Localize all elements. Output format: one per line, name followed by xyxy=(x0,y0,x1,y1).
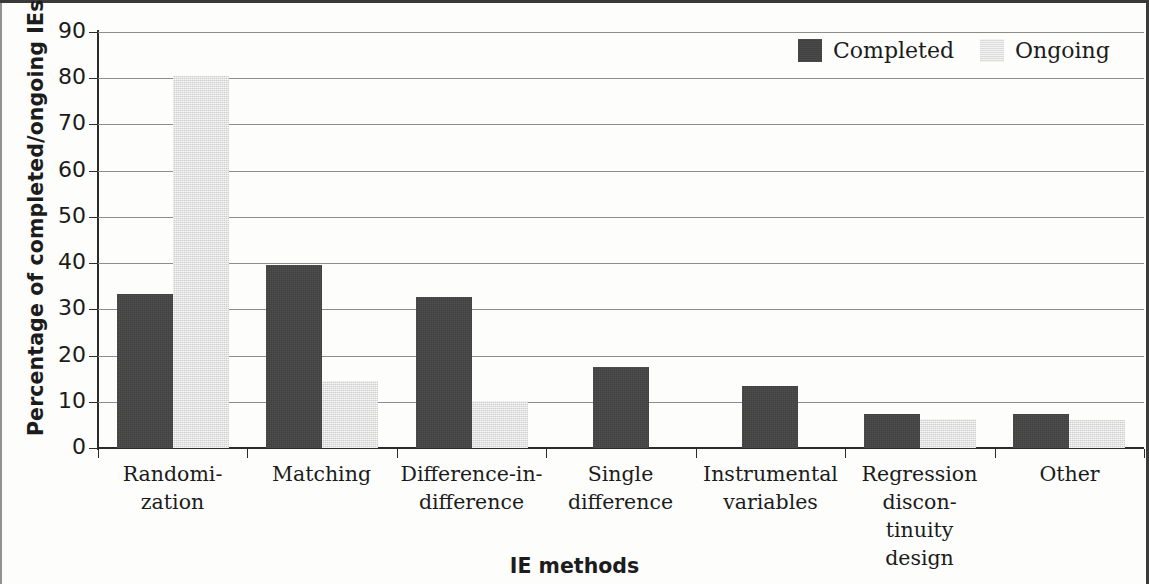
y-tick-label: 90 xyxy=(26,20,86,42)
x-tick-mark xyxy=(696,449,697,458)
x-axis-category-label-line: discon- xyxy=(845,489,994,517)
bar-completed xyxy=(416,297,472,448)
x-axis-category-label-line: Single xyxy=(546,461,695,489)
y-tick-label: 40 xyxy=(26,251,86,273)
bar-ongoing xyxy=(322,381,378,448)
x-axis-category-label-line: variables xyxy=(696,489,845,517)
y-tick-label: 80 xyxy=(26,66,86,88)
gridline xyxy=(98,78,1144,79)
gridline xyxy=(98,309,1144,310)
y-tick-mark xyxy=(89,171,98,172)
bar-ongoing xyxy=(920,419,976,448)
x-axis-category-label-line: Difference-in- xyxy=(397,461,546,489)
bar-completed xyxy=(864,414,920,448)
figure-border-top xyxy=(0,0,1149,3)
bar-completed xyxy=(266,265,322,448)
bar-completed xyxy=(117,294,173,448)
legend-entry-completed: Completed xyxy=(798,38,954,63)
x-axis-category-label: Matching xyxy=(247,461,396,489)
y-tick-label: 20 xyxy=(26,344,86,366)
y-tick-mark xyxy=(89,78,98,79)
gridline xyxy=(98,124,1144,125)
legend-label-ongoing: Ongoing xyxy=(1015,38,1110,63)
y-tick-mark xyxy=(89,32,98,33)
x-axis-category-label-line: difference xyxy=(546,489,695,517)
bar-ongoing xyxy=(472,401,528,448)
x-axis-category-label-line: Instrumental xyxy=(696,461,845,489)
x-axis-category-label-line: Regression xyxy=(845,461,994,489)
x-axis-category-label-line: difference xyxy=(397,489,546,517)
legend-swatch-completed-icon xyxy=(798,39,822,62)
y-tick-mark xyxy=(89,402,98,403)
gridline xyxy=(98,32,1144,33)
y-tick-mark xyxy=(89,309,98,310)
x-axis-category-label: Singledifference xyxy=(546,461,695,517)
figure-border-left xyxy=(0,0,2,584)
x-tick-mark xyxy=(546,449,547,458)
bar-chart-figure: Percentage of completed/ongoing IEs 9080… xyxy=(0,0,1149,584)
gridline xyxy=(98,171,1144,172)
legend-label-completed: Completed xyxy=(833,38,954,63)
bar-completed xyxy=(593,367,649,448)
x-tick-mark xyxy=(397,449,398,458)
y-tick-label: 10 xyxy=(26,390,86,412)
bar-ongoing xyxy=(173,76,229,448)
x-tick-mark xyxy=(995,449,996,458)
x-axis-category-label-line: tinuity xyxy=(845,517,994,545)
bar-completed xyxy=(742,386,798,448)
y-tick-mark xyxy=(89,124,98,125)
x-axis-category-label: Difference-in-difference xyxy=(397,461,546,517)
x-axis-category-label-line: Matching xyxy=(247,461,396,489)
y-tick-mark xyxy=(89,356,98,357)
x-axis-category-label: Randomi-zation xyxy=(98,461,247,517)
gridline xyxy=(98,356,1144,357)
x-tick-mark xyxy=(845,449,846,458)
y-tick-label: 70 xyxy=(26,112,86,134)
legend: Completed Ongoing xyxy=(798,38,1110,63)
x-tick-mark xyxy=(1144,449,1145,458)
x-axis-category-label-line: Other xyxy=(995,461,1144,489)
x-axis-category-label: Other xyxy=(995,461,1144,489)
x-axis-category-label-line: zation xyxy=(98,489,247,517)
x-tick-mark xyxy=(98,449,99,458)
legend-entry-ongoing: Ongoing xyxy=(980,38,1110,63)
y-tick-mark xyxy=(89,448,98,449)
y-tick-label: 30 xyxy=(26,297,86,319)
x-tick-mark xyxy=(247,449,248,458)
y-tick-label: 60 xyxy=(26,159,86,181)
x-axis-category-label-line: Randomi- xyxy=(98,461,247,489)
x-axis-title: IE methods xyxy=(0,554,1149,578)
y-tick-mark xyxy=(89,263,98,264)
gridline xyxy=(98,263,1144,264)
x-axis-category-label: Instrumentalvariables xyxy=(696,461,845,517)
legend-swatch-ongoing-icon xyxy=(980,39,1004,62)
y-tick-label: 0 xyxy=(26,436,86,458)
y-tick-mark xyxy=(89,217,98,218)
gridline xyxy=(98,217,1144,218)
bar-ongoing xyxy=(1069,420,1125,448)
bar-completed xyxy=(1013,414,1069,448)
y-tick-label: 50 xyxy=(26,205,86,227)
